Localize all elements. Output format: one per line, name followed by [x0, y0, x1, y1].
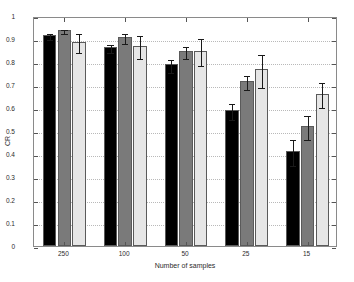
- y-axis-tick: [332, 248, 336, 249]
- y-axis-tick-label: 0.7: [0, 83, 15, 90]
- bar: [165, 64, 179, 246]
- error-bar-cap: [229, 104, 235, 105]
- bar: [316, 94, 330, 246]
- y-axis-tick: [332, 179, 336, 180]
- bar: [118, 37, 132, 246]
- y-axis-tick: [332, 225, 336, 226]
- y-axis-tick-label: 0.8: [0, 60, 15, 67]
- y-axis-tick: [34, 41, 38, 42]
- error-bar-line: [293, 140, 294, 166]
- error-bar-line: [201, 39, 202, 65]
- error-bar-cap: [244, 90, 250, 91]
- error-bar-line: [111, 45, 112, 53]
- x-axis-tick: [247, 18, 248, 22]
- error-bar-line: [322, 83, 323, 107]
- y-axis-tick: [34, 110, 38, 111]
- error-bar-cap: [290, 140, 296, 141]
- x-axis-tick-label: 250: [43, 251, 83, 258]
- y-axis-tick: [332, 41, 336, 42]
- y-axis-tick: [332, 87, 336, 88]
- error-bar-cap: [183, 47, 189, 48]
- error-bar-line: [247, 76, 248, 89]
- y-axis-tick-label: 0.2: [0, 198, 15, 205]
- bar: [104, 47, 118, 246]
- plot-area: [34, 18, 336, 246]
- error-bar-cap: [137, 59, 143, 60]
- error-bar-cap: [76, 53, 82, 54]
- y-axis-tick: [332, 18, 336, 19]
- y-axis-title: CR: [4, 136, 11, 146]
- error-bar-cap: [122, 34, 128, 35]
- x-axis-tick: [186, 18, 187, 22]
- error-bar-line: [125, 34, 126, 44]
- bar: [179, 51, 193, 246]
- y-axis-tick-label: 0.6: [0, 106, 15, 113]
- y-axis-tick-label: 0.4: [0, 152, 15, 159]
- error-bar-line: [308, 116, 309, 140]
- y-axis-tick: [34, 87, 38, 88]
- x-axis-tick: [186, 242, 187, 246]
- error-bar-cap: [122, 44, 128, 45]
- bar: [43, 35, 57, 246]
- plot-axes: [33, 17, 337, 247]
- bar: [133, 46, 147, 246]
- bar: [255, 69, 269, 246]
- error-bar-cap: [183, 59, 189, 60]
- error-bar-line: [171, 60, 172, 73]
- y-axis-tick: [34, 64, 38, 65]
- x-axis-tick: [64, 242, 65, 246]
- y-axis-tick: [34, 156, 38, 157]
- error-bar-cap: [61, 30, 67, 31]
- y-axis-tick: [34, 18, 38, 19]
- error-bar-cap: [61, 34, 67, 35]
- x-axis-tick-label: 25: [226, 251, 266, 258]
- y-axis-tick: [332, 202, 336, 203]
- y-axis-tick-label: 0.3: [0, 175, 15, 182]
- figure: CR Number of samples 00.10.20.30.40.50.6…: [0, 0, 354, 282]
- x-axis-tick-label: 100: [104, 251, 144, 258]
- x-axis-tick: [64, 18, 65, 22]
- error-bar-cap: [137, 36, 143, 37]
- error-bar-cap: [76, 34, 82, 35]
- error-bar-cap: [168, 60, 174, 61]
- y-axis-tick: [332, 133, 336, 134]
- error-bar-cap: [198, 39, 204, 40]
- bar: [240, 81, 254, 246]
- y-axis-tick: [332, 156, 336, 157]
- error-bar-cap: [319, 83, 325, 84]
- x-axis-tick: [125, 18, 126, 22]
- error-bar-line: [232, 104, 233, 120]
- error-bar-cap: [258, 55, 264, 56]
- y-axis-tick: [34, 202, 38, 203]
- y-axis-tick: [34, 225, 38, 226]
- error-bar-cap: [229, 120, 235, 121]
- bar: [194, 51, 208, 247]
- error-bar-cap: [107, 53, 113, 54]
- error-bar-cap: [244, 76, 250, 77]
- error-bar-cap: [107, 45, 113, 46]
- error-bar-cap: [47, 34, 53, 35]
- x-axis-tick-label: 50: [165, 251, 205, 258]
- error-bar-cap: [47, 40, 53, 41]
- y-axis-tick-label: 0.9: [0, 37, 15, 44]
- y-axis-tick: [34, 179, 38, 180]
- x-axis-tick: [247, 242, 248, 246]
- error-bar-cap: [258, 88, 264, 89]
- error-bar-line: [140, 36, 141, 59]
- error-bar-cap: [304, 116, 310, 117]
- x-axis-title: Number of samples: [33, 262, 337, 269]
- y-axis-tick: [34, 248, 38, 249]
- error-bar-line: [186, 47, 187, 59]
- y-axis-tick-label: 0: [0, 244, 15, 251]
- x-axis-tick: [125, 242, 126, 246]
- error-bar-line: [79, 34, 80, 52]
- error-bar-cap: [304, 140, 310, 141]
- bar: [301, 126, 315, 246]
- error-bar-cap: [198, 66, 204, 67]
- y-axis-tick: [332, 64, 336, 65]
- bar: [58, 30, 72, 246]
- error-bar-cap: [319, 108, 325, 109]
- error-bar-cap: [168, 73, 174, 74]
- x-axis-tick-label: 15: [287, 251, 327, 258]
- bar: [72, 42, 86, 246]
